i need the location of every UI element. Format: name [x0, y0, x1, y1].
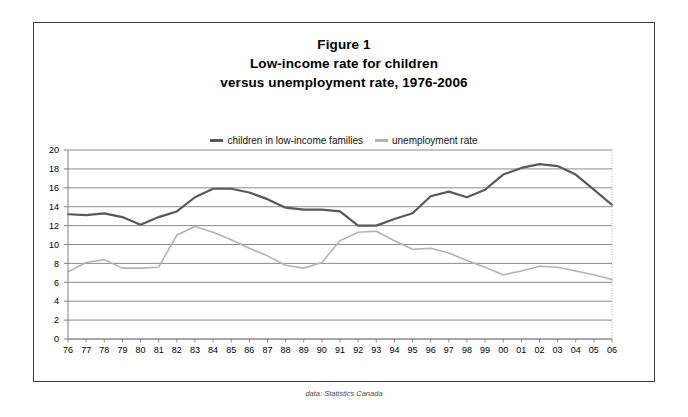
legend-swatch-unemployment [375, 139, 388, 142]
chart-legend: children in low-income families unemploy… [34, 135, 654, 146]
legend-label-unemployment: unemployment rate [392, 135, 478, 146]
figure-frame: Figure 1 Low-income rate for children ve… [33, 22, 655, 382]
legend-entry-unemployment: unemployment rate [375, 135, 478, 146]
title-line-3: versus unemployment rate, 1976-2006 [34, 73, 654, 92]
title-line-2: Low-income rate for children [34, 54, 654, 73]
title-line-1: Figure 1 [34, 35, 654, 54]
source-note: data: Statistics Canada [34, 389, 654, 398]
legend-label-low-income: children in low-income families [227, 135, 363, 146]
legend-entry-low-income: children in low-income families [210, 135, 363, 146]
figure-title: Figure 1 Low-income rate for children ve… [34, 35, 654, 92]
legend-swatch-low-income [210, 139, 223, 142]
